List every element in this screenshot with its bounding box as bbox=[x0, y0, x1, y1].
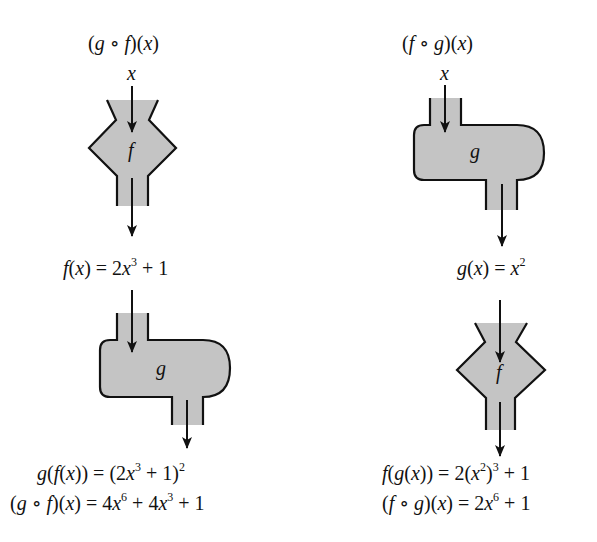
right-title: (f ∘ g)(x) bbox=[402, 32, 473, 54]
right-result-composition: f(g(x)) = 2(x2)3 + 1 bbox=[382, 462, 530, 484]
left-result-expanded: (g ∘ f)(x) = 4x6 + 4x3 + 1 bbox=[10, 492, 205, 514]
left-machine1-label: f bbox=[128, 139, 134, 161]
left-machine2-label: g bbox=[156, 357, 166, 379]
right-intermediate-equation: g(x) = x2 bbox=[457, 257, 525, 279]
left-input-label: x bbox=[127, 62, 136, 84]
left-result-composition: g(f(x)) = (2x3 + 1)2 bbox=[37, 462, 185, 484]
right-result-expanded: (f ∘ g)(x) = 2x6 + 1 bbox=[382, 492, 530, 514]
right-input-label: x bbox=[440, 62, 449, 84]
right-machine1-label: g bbox=[470, 140, 480, 162]
right-machine2-label: f bbox=[496, 361, 502, 383]
left-title: (g ∘ f)(x) bbox=[88, 32, 159, 54]
left-intermediate-equation: f(x) = 2x3 + 1 bbox=[63, 257, 168, 279]
